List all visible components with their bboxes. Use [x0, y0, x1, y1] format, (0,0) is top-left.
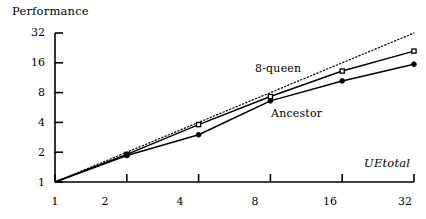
y-axis-ticks: [55, 33, 63, 182]
series-ancestor-line: [55, 64, 414, 182]
data-point-8-queen-4: [197, 123, 201, 127]
data-point-8-queen-16: [340, 69, 344, 73]
data-point-ancestor-4: [196, 132, 201, 137]
data-point-ancestor-2: [125, 153, 130, 158]
data-point-ancestor-16: [340, 79, 345, 84]
chart-figure: Performance UEtotal 32 16 8 4 2 1 1 2 4 …: [0, 0, 426, 219]
data-point-ancestor-32: [412, 62, 417, 67]
x-axis-ticks: [55, 174, 414, 182]
data-point-8-queen-32: [412, 49, 416, 53]
data-point-8-queen-8: [268, 94, 272, 98]
plot-area: [0, 0, 426, 219]
series-ideal-line: [55, 33, 414, 182]
data-point-ancestor-8: [268, 99, 273, 104]
ideal-line-path: [55, 33, 414, 182]
ancestor-line-path: [55, 64, 414, 182]
